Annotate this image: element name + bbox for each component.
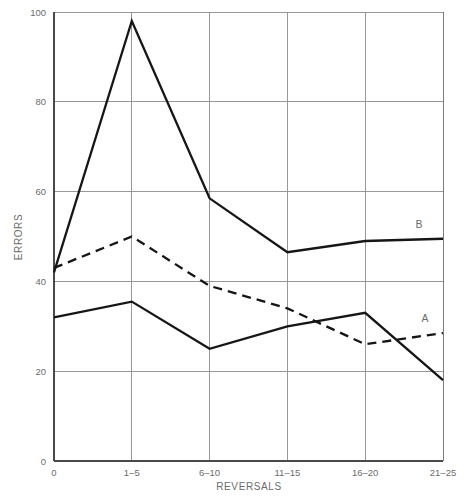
- vertical-gridlines: [132, 12, 443, 461]
- y-tick-label-100: 100: [30, 7, 46, 18]
- y-tick-label-80: 80: [35, 96, 46, 107]
- chart-figure: 100 80 60 40 20 0 0 1–5 6–10 11–15 16–20…: [0, 0, 466, 498]
- x-tick-label-11-15: 11–15: [275, 467, 301, 478]
- errors-reversals-line-chart: 100 80 60 40 20 0 0 1–5 6–10 11–15 16–20…: [0, 0, 466, 498]
- series-line-a-dashed: [54, 237, 443, 345]
- y-axis-title: ERRORS: [13, 214, 24, 260]
- y-tick-label-0: 0: [41, 456, 46, 467]
- y-tick-labels: 100 80 60 40 20 0: [30, 7, 46, 467]
- x-tick-label-16-20: 16–20: [352, 467, 378, 478]
- y-tick-label-40: 40: [35, 276, 46, 287]
- x-axis-title: REVERSALS: [216, 481, 281, 492]
- x-tick-label-21-25: 21–25: [430, 467, 456, 478]
- y-tick-label-20: 20: [35, 366, 46, 377]
- chart-axes: [54, 12, 443, 461]
- horizontal-gridlines: [54, 12, 443, 371]
- series-label-b: B: [415, 218, 422, 230]
- x-tick-label-6-10: 6–10: [199, 467, 220, 478]
- y-tick-label-60: 60: [35, 186, 46, 197]
- x-tick-label-0: 0: [51, 467, 56, 478]
- x-tick-label-1-5: 1–5: [124, 467, 140, 478]
- series-label-a: A: [421, 312, 428, 324]
- x-tick-labels: 0 1–5 6–10 11–15 16–20 21–25: [51, 467, 456, 478]
- series-line-b: [54, 21, 443, 272]
